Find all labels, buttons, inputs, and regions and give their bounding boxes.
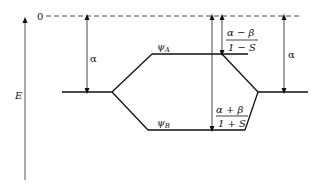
zero-label: 0 [37, 11, 43, 22]
left-alpha-arrow: α [87, 17, 97, 91]
left-alpha-label: α [90, 53, 97, 64]
bonding-numerator: α + β [216, 104, 243, 115]
energy-axis-label: E [14, 90, 23, 101]
zero-reference-line: 0 [37, 11, 302, 22]
right-alpha-arrow: α [284, 17, 295, 91]
antibonding-denominator: 1 − S [228, 42, 256, 53]
right-alpha-label: α [288, 49, 295, 60]
mo-energy-diagram: E 0 ψA ψB α [0, 0, 324, 188]
psi-b-label: ψB [157, 117, 170, 130]
antibonding-numerator: α − β [227, 27, 254, 38]
energy-axis: E [14, 20, 25, 180]
antibonding-arrow: α − β 1 − S [222, 17, 258, 53]
bonding-denominator: 1 + S [218, 118, 246, 129]
psi-a-label: ψA [157, 41, 170, 54]
